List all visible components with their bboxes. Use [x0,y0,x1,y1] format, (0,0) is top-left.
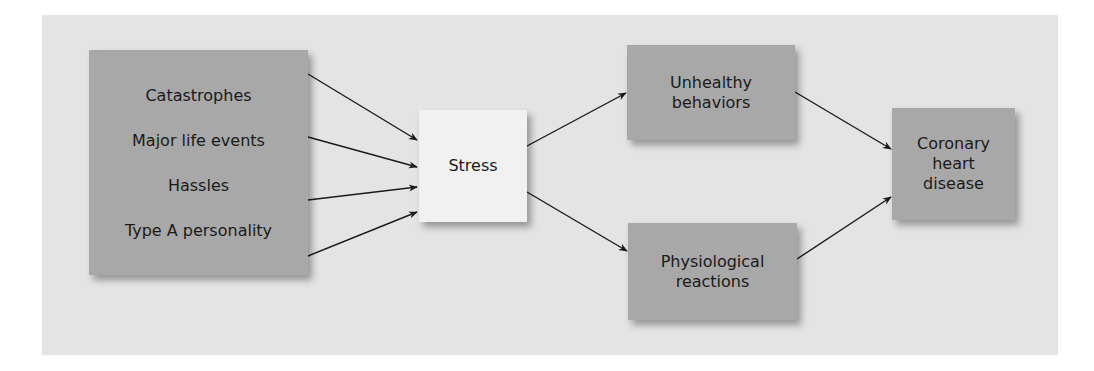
arrow-type-a-to-stress [308,212,417,256]
source-major-life-events: Major life events [132,131,265,151]
arrow-stress-to-unhealthy [527,93,626,146]
stress-label: Stress [448,156,497,176]
outcome-line1: Coronary [917,134,990,154]
physiological-line2: reactions [676,272,750,292]
source-hassles: Hassles [168,176,229,196]
arrow-life-events-to-stress [308,137,417,167]
arrow-stress-to-physiological [527,192,627,251]
stressor-sources-box: Catastrophes Major life events Hassles T… [89,50,308,275]
source-catastrophes: Catastrophes [145,86,251,106]
arrow-unhealthy-to-chd [795,92,891,149]
physiological-reactions-box: Physiological reactions [628,223,797,320]
outcome-line3: disease [923,174,984,194]
physiological-line1: Physiological [661,252,765,272]
source-type-a-personality: Type A personality [125,221,272,241]
stress-box: Stress [419,110,527,222]
arrow-catastrophes-to-stress [308,74,417,140]
outcome-line2: heart [932,154,975,174]
arrow-hassles-to-stress [308,187,417,200]
arrow-physiological-to-chd [797,197,891,259]
unhealthy-line2: behaviors [672,93,751,113]
unhealthy-line1: Unhealthy [670,73,752,93]
unhealthy-behaviors-box: Unhealthy behaviors [627,45,795,140]
coronary-heart-disease-box: Coronary heart disease [892,108,1015,220]
